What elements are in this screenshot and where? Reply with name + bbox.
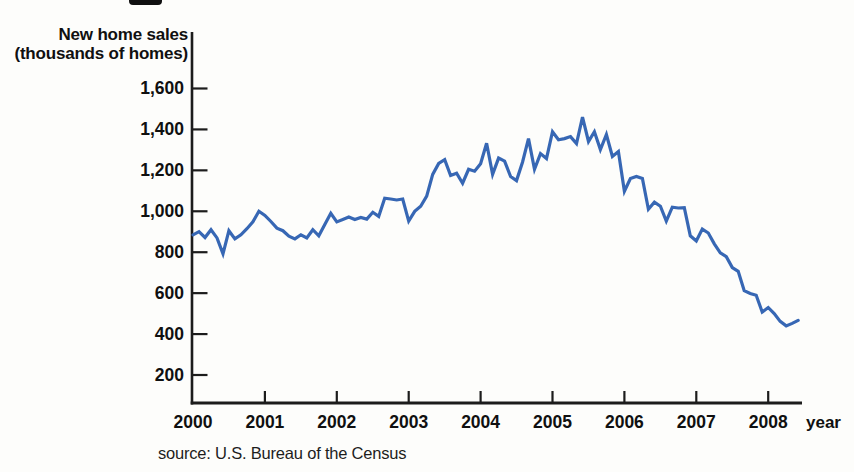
y-tick-label: 400 (155, 324, 184, 344)
sales-line (193, 117, 798, 326)
y-tick-label: 1,600 (140, 78, 184, 98)
y-tick-label: 1,200 (140, 160, 184, 180)
x-tick-label: 2006 (605, 412, 644, 432)
y-tick-label: 600 (155, 283, 184, 303)
source-caption: source: U.S. Bureau of the Census (158, 444, 406, 463)
y-tick-label: 1,000 (140, 201, 184, 221)
x-tick-label: 2001 (245, 412, 284, 432)
x-tick-label: 2003 (389, 412, 428, 432)
y-tick-label: 800 (155, 242, 184, 262)
x-tick-label: 2000 (174, 412, 213, 432)
new-home-sales-line-chart: 2004006008001,0001,2001,4001,60020002001… (0, 0, 854, 472)
y-tick-label: 1,400 (140, 119, 184, 139)
x-axis-unit-label: year (806, 413, 841, 433)
x-tick-label: 2007 (677, 412, 716, 432)
y-tick-label: 200 (155, 365, 184, 385)
x-tick-label: 2008 (749, 412, 788, 432)
x-tick-label: 2004 (461, 412, 500, 432)
x-tick-label: 2002 (317, 412, 356, 432)
x-tick-label: 2005 (533, 412, 572, 432)
